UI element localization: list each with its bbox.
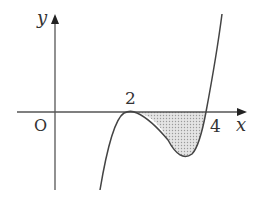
- origin-label: O: [34, 116, 47, 135]
- function-graph: y x O 2 4: [0, 0, 262, 201]
- tick-label-4: 4: [210, 116, 221, 136]
- cubic-curve: [100, 14, 222, 190]
- tick-label-2: 2: [125, 88, 136, 108]
- y-axis-label: y: [36, 7, 48, 28]
- y-axis-arrow-icon: [51, 14, 59, 24]
- x-axis-label: x: [236, 114, 246, 135]
